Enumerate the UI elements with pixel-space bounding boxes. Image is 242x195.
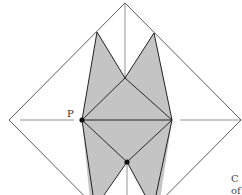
cut-off-text-line2: of	[231, 185, 242, 195]
point-p	[79, 117, 84, 122]
point-bottom	[124, 159, 129, 164]
origami-diagram: P C of	[0, 0, 242, 195]
cut-off-text-line1: C	[231, 173, 239, 184]
label-p: P	[67, 108, 74, 119]
